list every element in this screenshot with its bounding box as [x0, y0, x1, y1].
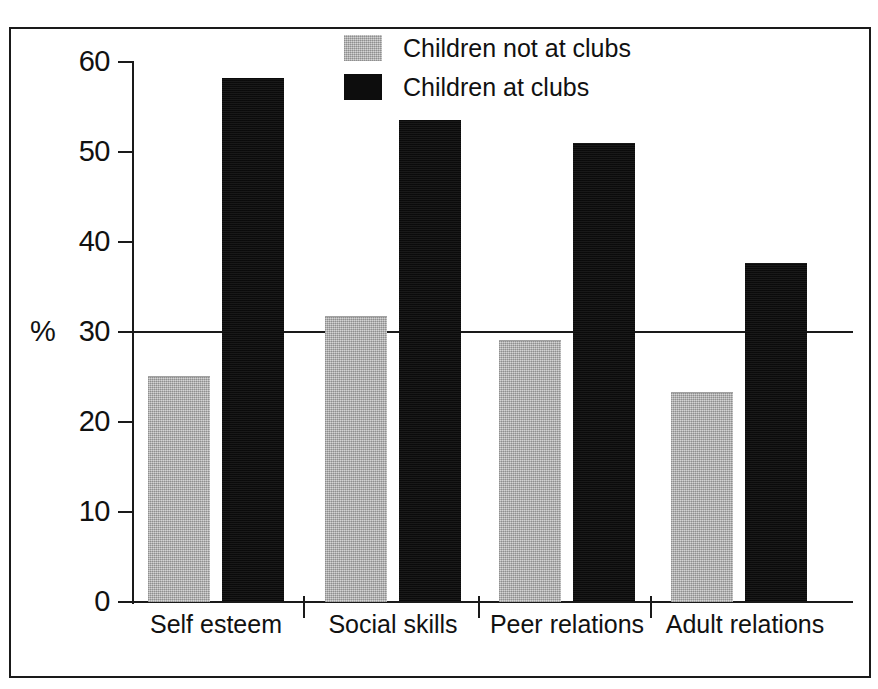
- x-label-social-skills: Social skills: [313, 612, 473, 637]
- y-tick-label-0: 0: [46, 587, 110, 616]
- y-tick-50: [118, 151, 133, 153]
- x-tick-3: [650, 596, 652, 618]
- bar-social-skills-at-clubs: [399, 120, 461, 602]
- y-tick-60: [118, 61, 133, 63]
- y-tick-0: [118, 601, 133, 603]
- bar-self-esteem-not-at-clubs: [148, 376, 210, 602]
- bar-adult-relations-at-clubs: [745, 263, 807, 602]
- legend-label-children-not-at-clubs: Children not at clubs: [403, 32, 631, 65]
- x-tick-2: [478, 596, 480, 618]
- legend-swatch-black-icon: [344, 74, 382, 100]
- y-tick-10: [118, 511, 133, 513]
- y-axis-title: %: [30, 317, 56, 346]
- bar-social-skills-not-at-clubs: [325, 316, 387, 602]
- x-label-adult-relations: Adult relations: [659, 612, 831, 637]
- y-tick-label-20: 20: [46, 407, 110, 436]
- y-tick-label-40: 40: [46, 227, 110, 256]
- plot-area: 60 50 40 30 20 10 0 % Self esteem Social…: [0, 0, 878, 689]
- bar-adult-relations-not-at-clubs: [671, 392, 733, 602]
- x-label-peer-relations: Peer relations: [487, 612, 647, 637]
- bar-self-esteem-at-clubs: [222, 78, 284, 602]
- y-tick-label-50: 50: [46, 137, 110, 166]
- y-tick-40: [118, 241, 133, 243]
- x-label-self-esteem: Self esteem: [136, 612, 296, 637]
- y-tick-30: [118, 331, 133, 333]
- x-tick-1: [303, 596, 305, 618]
- y-tick-label-10: 10: [46, 497, 110, 526]
- legend-label-children-at-clubs: Children at clubs: [403, 71, 589, 104]
- legend-swatch-light-grey-icon: [344, 35, 382, 61]
- y-tick-label-60: 60: [46, 47, 110, 76]
- y-tick-20: [118, 421, 133, 423]
- chart-figure: 60 50 40 30 20 10 0 % Self esteem Social…: [0, 0, 878, 689]
- bar-peer-relations-not-at-clubs: [499, 340, 561, 602]
- bar-peer-relations-at-clubs: [573, 143, 635, 602]
